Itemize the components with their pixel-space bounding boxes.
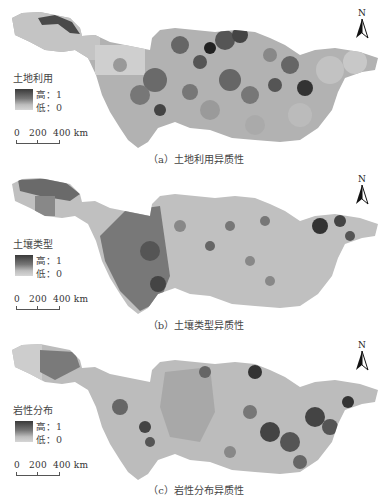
legend-gradient — [15, 255, 33, 276]
north-arrow-icon — [352, 18, 372, 40]
legend-title: 岩性分布 — [13, 402, 53, 417]
north-arrow-icon — [352, 350, 372, 372]
legend-high-label: 高：1 — [36, 87, 62, 101]
legend-title: 土地利用 — [13, 70, 53, 85]
north-label: N — [352, 8, 372, 18]
legend-gradient — [15, 421, 33, 442]
caption: （c）岩性分布异质性 — [0, 482, 392, 497]
north-label: N — [352, 340, 372, 350]
legend-low-label: 低：0 — [36, 432, 62, 446]
caption: （b）土壤类型异质性 — [0, 317, 392, 332]
legend-high-label: 高：1 — [36, 253, 62, 267]
legend-high-label: 高：1 — [36, 419, 62, 433]
panel-land-use: N 土地利用 高：1 低：0 0 200 400 km （a）土地利用异质性 — [0, 0, 392, 166]
scale-bar-labels: 0 200 400 km — [14, 294, 88, 304]
north-arrow: N — [352, 8, 372, 44]
scale-bar — [16, 472, 60, 476]
scale-bar-labels: 0 200 400 km — [14, 128, 88, 138]
north-arrow: N — [352, 340, 372, 376]
north-label: N — [352, 174, 372, 184]
legend-low-label: 低：0 — [36, 100, 62, 114]
north-arrow: N — [352, 174, 372, 210]
panel-soil-type: N 土壤类型 高：1 低：0 0 200 400 km （b）土壤类型异质性 — [0, 166, 392, 332]
panel-lithology: N 岩性分布 高：1 低：0 0 200 400 km （c）岩性分布异质性 — [0, 332, 392, 503]
scale-bar — [16, 140, 60, 144]
legend-gradient — [15, 89, 33, 110]
scale-bar — [16, 306, 60, 310]
scale-bar-labels: 0 200 400 km — [14, 460, 88, 470]
caption: （a）土地利用异质性 — [0, 151, 392, 166]
legend-title: 土壤类型 — [13, 236, 53, 251]
north-arrow-icon — [352, 184, 372, 206]
legend-low-label: 低：0 — [36, 266, 62, 280]
